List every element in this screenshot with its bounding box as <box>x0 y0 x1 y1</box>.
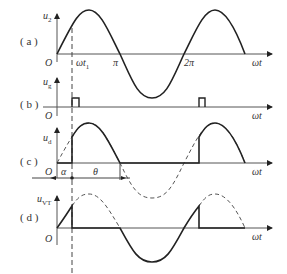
y-label-a: u2 <box>43 10 52 24</box>
panel-tag-b: ( b ) <box>20 98 39 111</box>
theta-arrow-icon <box>121 176 126 180</box>
thyristor-voltage-uvt <box>57 206 245 262</box>
y-label-b: ug <box>43 76 52 90</box>
x-label-b: ωt <box>252 110 262 121</box>
panel-tag-a: ( a ) <box>20 35 38 48</box>
theta-label: θ <box>93 166 98 177</box>
tick-2pi: 2π <box>184 57 195 68</box>
panel-a: ( a ) u2 O ωt1 π 2π ωt <box>20 10 272 98</box>
y-label-d: uVT <box>37 193 52 207</box>
x-label-c: ωt <box>252 166 262 177</box>
tick-wt1: ωt1 <box>76 57 90 71</box>
origin-a: O <box>45 57 52 68</box>
x-label-d: ωt <box>252 231 262 242</box>
panel-c: ( c ) ud O α θ ωt <box>20 123 272 198</box>
gate-pulse-2 <box>199 98 205 107</box>
firing-point-dot <box>70 176 74 180</box>
origin-b: O <box>45 110 52 121</box>
panel-d: ( d ) uVT O ωt <box>20 193 272 262</box>
alpha-label: α <box>61 166 67 177</box>
panel-tag-c: ( c ) <box>20 155 38 168</box>
sine-dashed-d <box>72 194 245 228</box>
y-label-c: ud <box>43 132 52 146</box>
panel-tag-d: ( d ) <box>20 211 39 224</box>
sine-dashed-c <box>57 123 245 198</box>
origin-c: O <box>45 166 52 177</box>
tick-pi: π <box>113 57 119 68</box>
output-ud <box>57 123 245 163</box>
origin-d: O <box>45 233 52 244</box>
gate-pulse-1 <box>72 98 79 107</box>
waveform-diagram: ( a ) u2 O ωt1 π 2π ωt ( b ) ug O ωt ( c… <box>0 0 287 274</box>
panel-b: ( b ) ug O ωt <box>20 76 272 121</box>
x-label-a: ωt <box>252 57 262 68</box>
